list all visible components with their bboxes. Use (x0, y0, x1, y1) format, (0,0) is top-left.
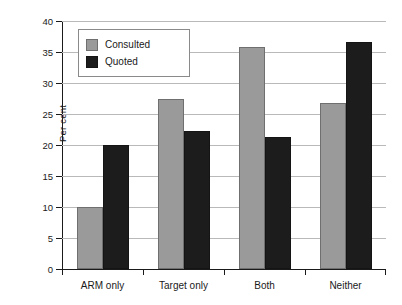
x-axis-tick (143, 269, 144, 275)
y-axis-tick (56, 52, 62, 53)
y-axis-tick (56, 83, 62, 84)
y-axis-tick-label: 20 (22, 140, 53, 151)
y-axis-tick-label: 30 (22, 78, 53, 89)
x-axis-tick (305, 269, 306, 275)
bar-consulted (77, 207, 103, 269)
y-axis-tick (56, 207, 62, 208)
y-axis-tick (56, 114, 62, 115)
x-axis-tick (62, 269, 63, 275)
bar-quoted (265, 137, 291, 269)
legend: Consulted Quoted (78, 29, 190, 77)
x-axis-category-label: Both (254, 280, 275, 291)
bar-chart: Per cent 0510152025303540 ARM onlyTarget… (0, 0, 402, 305)
x-axis-tick (385, 269, 386, 275)
bar-consulted (320, 103, 346, 269)
y-axis-tick-label: 40 (22, 16, 53, 27)
bar-group (224, 21, 305, 269)
y-axis-tick (56, 238, 62, 239)
legend-label-consulted: Consulted (105, 39, 150, 50)
bar-consulted (239, 47, 265, 269)
y-axis-tick-label: 25 (22, 109, 53, 120)
x-axis-category-label: Neither (329, 280, 361, 291)
y-axis-tick-label: 35 (22, 47, 53, 58)
legend-swatch-quoted-icon (86, 56, 98, 68)
y-axis-tick-label: 5 (22, 233, 53, 244)
bar-group (305, 21, 386, 269)
legend-item-consulted: Consulted (86, 36, 181, 53)
legend-swatch-consulted-icon (86, 39, 98, 51)
y-axis-tick (56, 145, 62, 146)
bar-consulted (158, 99, 184, 270)
y-axis-tick (56, 21, 62, 22)
bar-quoted (346, 42, 372, 269)
legend-item-quoted: Quoted (86, 53, 181, 70)
y-axis-tick-label: 0 (22, 264, 53, 275)
y-axis-tick (56, 176, 62, 177)
bar-quoted (184, 131, 210, 269)
y-axis-tick-label: 10 (22, 202, 53, 213)
x-axis-category-label: Target only (159, 280, 208, 291)
x-axis: ARM onlyTarget onlyBothNeither (62, 269, 386, 305)
bar-quoted (103, 145, 129, 269)
legend-label-quoted: Quoted (105, 56, 138, 67)
x-axis-tick (224, 269, 225, 275)
y-axis-tick-label: 15 (22, 171, 53, 182)
x-axis-category-label: ARM only (81, 280, 124, 291)
